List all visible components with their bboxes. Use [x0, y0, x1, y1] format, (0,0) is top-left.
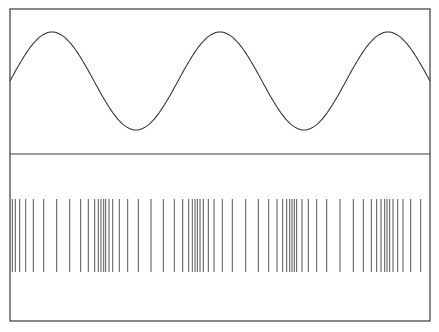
sine-wave-stimulus	[10, 32, 430, 130]
figure-frame	[10, 9, 430, 321]
stimulus-response-figure	[0, 0, 439, 332]
spike-train-raster	[12, 199, 420, 272]
